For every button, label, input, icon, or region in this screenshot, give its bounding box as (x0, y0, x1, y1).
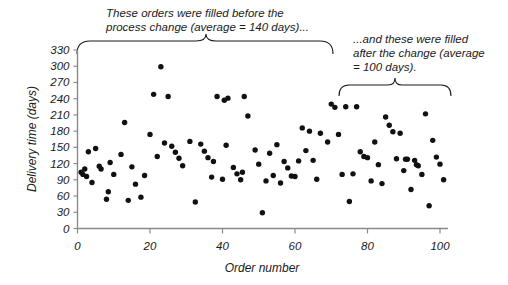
data-point (383, 114, 388, 119)
data-point (423, 111, 428, 116)
data-point (231, 165, 236, 170)
data-point (187, 139, 192, 144)
data-point (274, 142, 279, 147)
data-point (240, 170, 245, 175)
scatter-plot-canvas: 0306090120150180210240270300330 02040608… (0, 0, 508, 285)
y-tick-label: 0 (63, 223, 70, 235)
data-point (84, 174, 89, 179)
data-point (332, 105, 337, 110)
data-point (281, 159, 286, 164)
data-point (180, 163, 185, 168)
delivery-time-scatter-figure: These orders were filled before the proc… (0, 0, 508, 285)
data-point (111, 172, 116, 177)
data-point (223, 143, 228, 148)
x-tick-label: 80 (361, 240, 374, 252)
data-point (343, 104, 348, 109)
data-point (318, 131, 323, 136)
y-tick-label: 300 (50, 60, 70, 72)
data-point (214, 94, 219, 99)
data-point (98, 166, 103, 171)
data-point (263, 178, 268, 183)
data-point (147, 132, 152, 137)
data-point (252, 147, 257, 152)
data-point (285, 165, 290, 170)
data-point (220, 177, 225, 182)
data-point (350, 171, 355, 176)
data-point (419, 172, 424, 177)
data-point (441, 177, 446, 182)
data-point (205, 155, 210, 160)
data-point (387, 122, 392, 127)
data-point (354, 104, 359, 109)
data-point (390, 129, 395, 134)
data-point (193, 199, 198, 204)
data-point (267, 151, 272, 156)
data-point (138, 194, 143, 199)
data-point (173, 150, 178, 155)
x-axis-title: Order number (225, 261, 301, 275)
data-point (379, 181, 384, 186)
y-tick-label: 60 (57, 190, 70, 202)
data-point (437, 161, 442, 166)
x-axis: 020406080100 (74, 229, 450, 252)
y-tick-label: 120 (50, 158, 70, 170)
data-point (278, 180, 283, 185)
data-point (234, 171, 239, 176)
data-point (408, 187, 413, 192)
x-tick-label: 20 (143, 240, 157, 252)
data-point (118, 152, 123, 157)
data-point (158, 64, 163, 69)
data-point (336, 132, 341, 137)
y-tick-label: 210 (49, 109, 70, 121)
data-point (106, 189, 111, 194)
data-point (165, 94, 170, 99)
data-point (176, 155, 181, 160)
data-point (339, 172, 344, 177)
x-axis-ticks (78, 229, 441, 234)
data-point (155, 154, 160, 159)
data-point (358, 149, 363, 154)
y-tick-label: 90 (57, 174, 70, 186)
x-tick-label: 40 (216, 240, 229, 252)
data-point (86, 149, 91, 154)
data-point (202, 148, 207, 153)
data-point (310, 158, 315, 163)
data-point (225, 95, 230, 100)
data-point (307, 128, 312, 133)
data-point (372, 139, 377, 144)
y-tick-label: 30 (57, 206, 70, 218)
data-point (238, 177, 243, 182)
data-point (122, 120, 127, 125)
data-point (347, 199, 352, 204)
y-tick-label: 240 (49, 93, 70, 105)
data-point (434, 154, 439, 159)
data-point (142, 173, 147, 178)
data-point (256, 161, 261, 166)
data-point (397, 131, 402, 136)
y-axis: 0306090120150180210240270300330 (49, 44, 77, 235)
data-point (296, 158, 301, 163)
data-point (314, 177, 319, 182)
y-tick-label: 150 (50, 141, 70, 153)
data-point (126, 198, 131, 203)
data-point (162, 140, 167, 145)
data-point (368, 178, 373, 183)
data-point (271, 173, 276, 178)
data-point (104, 197, 109, 202)
data-point (303, 148, 308, 153)
x-tick-label: 0 (74, 240, 81, 252)
x-axis-tick-labels: 020406080100 (74, 240, 450, 252)
data-point (93, 146, 98, 151)
x-tick-label: 100 (430, 240, 450, 252)
data-point (365, 155, 370, 160)
data-point (209, 174, 214, 179)
data-point (401, 168, 406, 173)
data-point (107, 160, 112, 165)
data-point (242, 94, 247, 99)
data-points (78, 64, 446, 215)
y-axis-title: Delivery time (days) (25, 86, 39, 192)
data-point (211, 159, 216, 164)
data-point (89, 180, 94, 185)
data-point (169, 144, 174, 149)
data-point (151, 92, 156, 97)
